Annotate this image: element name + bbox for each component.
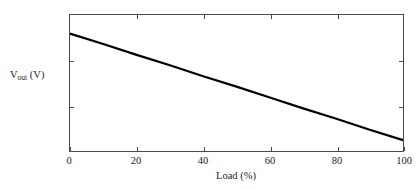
x-tick-label-80: 80	[332, 156, 343, 167]
plot-area	[69, 14, 404, 152]
chart-figure: 12.2 12.1 12 11.9 0 20 40 60 80 100 Load…	[0, 0, 420, 189]
x-tick-label-0: 0	[66, 156, 71, 167]
data-line-svg	[70, 15, 403, 151]
x-tick-label-100: 100	[396, 156, 412, 167]
x-tick-label-40: 40	[198, 156, 209, 167]
x-tick-100	[404, 147, 405, 151]
x-tick-label-20: 20	[131, 156, 142, 167]
x-tick-label-60: 60	[265, 156, 276, 167]
series-vout-line	[70, 34, 403, 141]
y-axis-title: Vout (V)	[10, 70, 44, 81]
x-axis-title: Load (%)	[216, 171, 256, 182]
y-axis-title-main: V	[10, 69, 18, 80]
y-axis-title-unit: (V)	[27, 69, 44, 80]
y-axis-title-subscript: out	[18, 73, 28, 82]
